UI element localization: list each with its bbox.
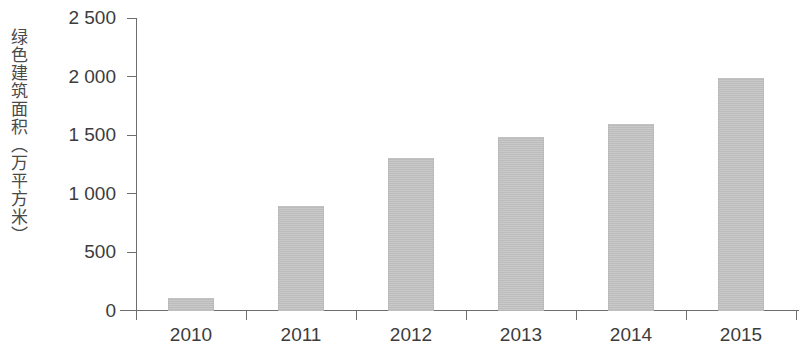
x-axis-tick [246,311,247,320]
bar-2012 [388,158,434,310]
bar-2010 [168,298,214,311]
x-axis-tick [466,311,467,320]
x-axis-tick-label: 2015 [686,324,796,345]
bar-chart-figure: 绿色建筑面积（万平方米） 05001 0001 5002 0002 500 20… [0,0,801,349]
bar-2015 [718,78,764,311]
x-axis-tick [796,311,797,320]
x-axis-tick-label: 2011 [246,324,356,345]
x-axis-tick [686,311,687,320]
x-axis-tick [356,311,357,320]
bar-2014 [608,124,654,310]
x-axis-tick-label: 2010 [136,324,246,345]
x-axis-tick [136,311,137,320]
bar-2013 [498,137,544,310]
x-axis-tick-label: 2014 [576,324,686,345]
bars-layer [0,0,801,311]
x-axis-tick-label: 2012 [356,324,466,345]
bar-2011 [278,206,324,310]
x-axis-tick [576,311,577,320]
x-axis-tick-label: 2013 [466,324,576,345]
